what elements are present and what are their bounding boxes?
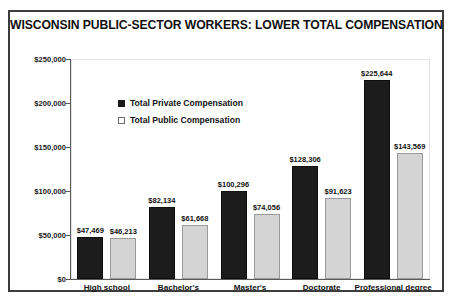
y-axis-line	[70, 59, 71, 280]
legend-item-public[interactable]: Total Public Compensation	[118, 115, 243, 125]
x-axis-category-label: Professional degree	[348, 283, 438, 292]
bar-public[interactable]	[254, 214, 280, 279]
bar-value-label: $82,134	[138, 196, 186, 205]
bar-value-label: $225,644	[353, 69, 401, 78]
bar-public[interactable]	[325, 198, 351, 279]
y-axis-tick-mark	[66, 191, 70, 192]
legend-item-private[interactable]: Total Private Compensation	[118, 98, 243, 108]
legend-swatch-private-icon	[118, 100, 125, 107]
bar-value-label: $128,306	[281, 155, 329, 164]
bar-private[interactable]	[364, 80, 390, 279]
y-axis-tick-label: $0	[10, 275, 66, 284]
bar-value-label: $91,623	[314, 187, 362, 196]
y-axis-tick-mark	[66, 279, 70, 280]
y-axis-tick-label: $100,000	[10, 187, 66, 196]
x-axis-line	[70, 279, 430, 280]
bar-public[interactable]	[397, 153, 423, 279]
y-axis-tick-label: $50,000	[10, 231, 66, 240]
y-axis-tick-mark	[66, 59, 70, 60]
legend-swatch-public-icon	[118, 117, 125, 124]
chart-title: WISCONSIN PUBLIC-SECTOR WORKERS: LOWER T…	[10, 18, 442, 32]
y-axis-tick-label: $150,000	[10, 143, 66, 152]
y-axis-tick-label: $200,000	[10, 99, 66, 108]
bar-value-label: $143,569	[386, 142, 434, 151]
bar-public[interactable]	[110, 238, 136, 279]
bar-public[interactable]	[182, 225, 208, 279]
bar-value-label: $61,668	[171, 214, 219, 223]
legend-label-private: Total Private Compensation	[130, 98, 243, 108]
legend-label-public: Total Public Compensation	[130, 115, 240, 125]
bar-value-label: $74,056	[243, 203, 291, 212]
y-axis-tick-mark	[66, 147, 70, 148]
bar-value-label: $46,213	[99, 227, 147, 236]
bar-private[interactable]	[292, 166, 318, 279]
bar-value-label: $100,296	[210, 180, 258, 189]
chart-legend: Total Private Compensation Total Public …	[118, 98, 243, 132]
y-axis-tick-label: $250,000	[10, 55, 66, 64]
chart-frame: WISCONSIN PUBLIC-SECTOR WORKERS: LOWER T…	[8, 10, 444, 292]
y-axis-tick-mark	[66, 103, 70, 104]
bar-private[interactable]	[77, 237, 103, 279]
